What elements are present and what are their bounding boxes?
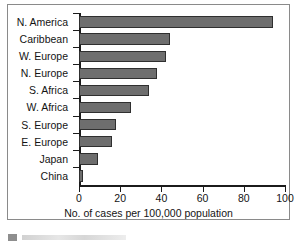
category-tick <box>73 81 79 82</box>
bar-row <box>79 65 285 82</box>
bar-caribbean <box>79 33 170 44</box>
category-tick <box>73 116 79 117</box>
category-tick <box>73 98 79 99</box>
bar-s-europe <box>79 119 116 130</box>
category-tick <box>73 133 79 134</box>
category-label: N. Europe <box>0 65 73 82</box>
category-tick <box>73 64 79 65</box>
bar-e-europe <box>79 136 112 147</box>
category-label: W. Europe <box>0 48 73 65</box>
bar-row <box>79 82 285 99</box>
bar-n-europe <box>79 68 157 79</box>
plot-area <box>79 14 285 185</box>
figure: N. America Caribbean W. Europe N. Europe… <box>0 0 299 244</box>
bar-n-america <box>79 16 273 27</box>
bar-w-africa <box>79 102 131 113</box>
category-label: W. Africa <box>0 99 73 116</box>
bar-s-africa <box>79 85 149 96</box>
category-label: Japan <box>0 151 73 168</box>
bar-row <box>79 31 285 48</box>
bar-row <box>79 99 285 116</box>
bar-rows <box>79 14 285 185</box>
category-label: China <box>0 168 73 185</box>
bar-row <box>79 168 285 185</box>
caption-text-cutoff <box>22 235 126 240</box>
category-label: S. Europe <box>0 117 73 134</box>
caption-marker <box>8 234 17 241</box>
bar-row <box>79 117 285 134</box>
category-tick <box>73 167 79 168</box>
category-label: N. America <box>0 14 73 31</box>
category-label: E. Europe <box>0 134 73 151</box>
caption-strip <box>8 233 128 242</box>
value-axis-tick-label: 0 <box>76 192 82 204</box>
category-axis-labels: N. America Caribbean W. Europe N. Europe… <box>0 14 73 185</box>
category-tick <box>73 30 79 31</box>
bar-row <box>79 14 285 31</box>
category-label: S. Africa <box>0 82 73 99</box>
value-axis-tick-label: 40 <box>156 192 168 204</box>
category-tick <box>73 150 79 151</box>
bar-row <box>79 151 285 168</box>
bar-row <box>79 48 285 65</box>
bar-w-europe <box>79 51 166 62</box>
value-axis-tick-label: 20 <box>114 192 126 204</box>
value-axis-tick-labels: 020406080100 <box>79 192 285 206</box>
value-axis-tick-label: 60 <box>197 192 209 204</box>
category-tick <box>73 13 79 14</box>
bar-row <box>79 134 285 151</box>
x-axis-title: No. of cases per 100,000 population <box>7 207 290 219</box>
value-axis-tick-label: 80 <box>238 192 250 204</box>
bar-china <box>79 170 83 181</box>
category-label: Caribbean <box>0 31 73 48</box>
value-axis-tick-label: 100 <box>276 192 294 204</box>
category-tick <box>73 47 79 48</box>
bar-japan <box>79 153 98 164</box>
